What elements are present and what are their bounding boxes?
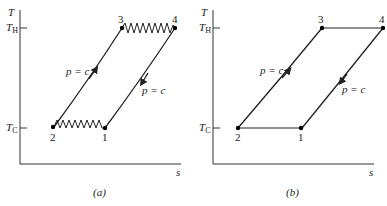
arrow-down-icon <box>341 74 347 82</box>
point-label-4: 4 <box>379 13 385 25</box>
state-point-1 <box>299 126 303 130</box>
state-point-3 <box>320 26 324 30</box>
point-label-2: 2 <box>50 131 56 143</box>
state-point-3 <box>120 26 124 30</box>
state-point-2 <box>51 125 55 129</box>
state-point-1 <box>103 126 107 130</box>
process-4-1 <box>105 28 175 128</box>
point-label-4: 4 <box>172 13 178 25</box>
y-axis-label: T <box>201 6 208 18</box>
panel-a: T s TH TC 3 4 2 1 p = c p = c (a) <box>6 6 181 199</box>
point-label-1: 1 <box>102 131 108 143</box>
process-2-3 <box>54 28 122 127</box>
x-axis-label: s <box>369 166 373 178</box>
y-axis-label: T <box>8 6 15 18</box>
process-2-3 <box>238 28 322 128</box>
process-label-left: p = c <box>259 64 283 76</box>
point-label-3: 3 <box>118 13 124 25</box>
heat-rejection-zigzag <box>54 120 105 128</box>
process-label-right: p = c <box>341 83 365 95</box>
heat-addition-zigzag <box>122 23 175 33</box>
tc-label: TC <box>6 121 17 135</box>
state-point-4 <box>381 26 385 30</box>
arrow-up-icon <box>89 69 96 79</box>
state-point-4 <box>173 26 177 30</box>
process-label-left: p = c <box>65 65 89 77</box>
ts-diagrams: T s TH TC 3 4 2 1 p = c p = c (a) T <box>0 0 387 206</box>
point-label-3: 3 <box>318 13 324 25</box>
panel-b: T s TH TC 3 4 2 1 p = c p = c (b) <box>199 6 385 199</box>
point-label-1: 1 <box>298 131 304 143</box>
process-4-1 <box>302 28 383 128</box>
th-label: TH <box>6 21 18 35</box>
th-label: TH <box>199 21 211 35</box>
caption-b: (b) <box>286 186 299 199</box>
tc-label: TC <box>199 121 210 135</box>
point-label-2: 2 <box>235 131 241 143</box>
process-label-right: p = c <box>141 84 165 96</box>
caption-a: (a) <box>93 186 106 199</box>
x-axis-label: s <box>176 166 180 178</box>
state-point-2 <box>236 126 240 130</box>
